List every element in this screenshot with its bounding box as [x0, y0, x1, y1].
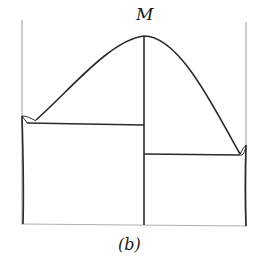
phase-diagram	[0, 0, 261, 269]
left-eutectic-line	[27, 123, 144, 125]
compound-m-label: M	[136, 4, 153, 24]
baseline	[22, 224, 246, 226]
figure-caption: (b)	[118, 235, 141, 254]
right-eutectic-line	[144, 154, 240, 155]
liquidus-curve	[36, 36, 240, 154]
right-solvus-curve	[245, 145, 246, 226]
